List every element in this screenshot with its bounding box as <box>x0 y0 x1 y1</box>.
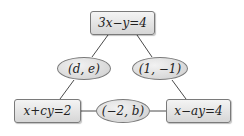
solution-label: (−2, b) <box>102 104 144 118</box>
equation-triangle-diagram: 3x−y=4 (d, e) (1, −1) x+cy=2 (−2, b) x−a… <box>0 0 244 136</box>
solution-label: (1, −1) <box>139 62 181 76</box>
equation-node-bottom-left: x+cy=2 <box>14 99 81 123</box>
solution-ellipse-bottom: (−2, b) <box>96 99 150 123</box>
connector-top-to-left-ellipse <box>92 35 108 57</box>
solution-ellipse-right: (1, −1) <box>132 57 188 80</box>
equation-node-bottom-right: x−ay=4 <box>166 99 231 123</box>
equation-label: 3x−y=4 <box>98 16 147 30</box>
equation-label: x+cy=2 <box>23 104 71 118</box>
connector-top-to-right-ellipse <box>137 35 152 57</box>
solution-ellipse-left: (d, e) <box>57 57 111 80</box>
equation-label: x−ay=4 <box>174 104 222 118</box>
connector-left-ellipse-to-bottom-left <box>60 80 74 99</box>
equation-node-top: 3x−y=4 <box>90 11 155 35</box>
solution-label: (d, e) <box>68 62 100 76</box>
connector-right-ellipse-to-bottom-right <box>172 80 186 99</box>
